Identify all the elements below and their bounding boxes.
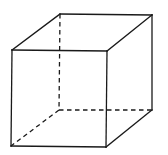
front-top-edge xyxy=(12,50,107,51)
back-left-hidden-edge xyxy=(59,14,60,110)
cube-diagram xyxy=(0,0,168,155)
front-left-edge xyxy=(11,50,12,146)
back-top-edge xyxy=(60,14,152,15)
top-left-depth-edge xyxy=(12,14,60,50)
bottom-right-depth-edge xyxy=(106,110,152,147)
front-bottom-edge xyxy=(11,146,106,147)
front-right-edge xyxy=(106,51,107,147)
top-right-depth-edge xyxy=(107,15,152,51)
bottom-left-depth-hidden-edge xyxy=(11,110,59,146)
